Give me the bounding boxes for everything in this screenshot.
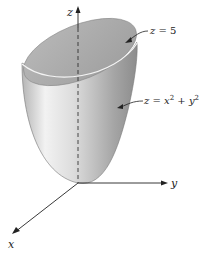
paraboloid-equation: z = x2 + y2 bbox=[143, 94, 199, 106]
z-axis-label: z bbox=[66, 6, 73, 19]
x-axis-arrow-icon bbox=[12, 227, 20, 234]
svg-text:z = 5: z = 5 bbox=[149, 25, 176, 36]
paraboloid-figure: z y x z = 5 z = x2 + y2 bbox=[0, 0, 215, 258]
svg-text:z = x2 + y2: z = x2 + y2 bbox=[143, 94, 199, 106]
x-axis-label: x bbox=[8, 238, 15, 251]
z-axis-arrow-icon bbox=[76, 6, 81, 13]
x-axis bbox=[15, 183, 78, 232]
y-axis-arrow-icon bbox=[161, 181, 168, 186]
plane-equation: z = 5 bbox=[149, 25, 176, 36]
y-axis-label: y bbox=[170, 177, 178, 190]
